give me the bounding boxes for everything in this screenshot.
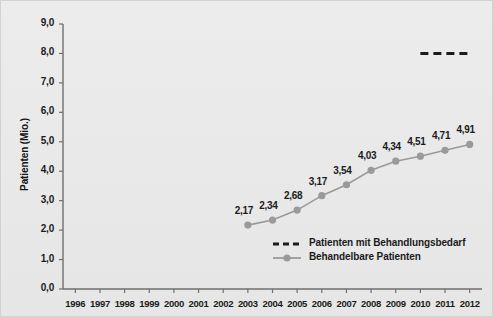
data-point-marker — [441, 147, 448, 154]
legend-marker-swatch — [283, 254, 290, 261]
data-point-marker — [466, 141, 473, 148]
data-point-marker — [318, 192, 325, 199]
y-axis-tick-label: 3,0 — [24, 194, 54, 205]
legend-marks — [273, 244, 301, 262]
x-axis-tick-label: 2012 — [453, 298, 487, 309]
data-point-marker — [392, 158, 399, 165]
y-axis-tick-label: 0,0 — [24, 282, 54, 293]
data-point-marker — [343, 181, 350, 188]
data-point-marker — [244, 222, 251, 229]
data-point-label: 4,91 — [451, 124, 481, 135]
legend-item-label: Patienten mit Behandlungsbedarf — [309, 237, 465, 248]
legend-item-label: Behandelbare Patienten — [309, 251, 421, 262]
data-point-marker — [417, 153, 424, 160]
y-axis-tick-label: 2,0 — [24, 223, 54, 234]
y-axis-tick-label: 4,0 — [24, 164, 54, 175]
y-axis-tick-label: 7,0 — [24, 76, 54, 87]
data-point-label: 3,54 — [327, 165, 357, 176]
y-axis-tick-label: 9,0 — [24, 17, 54, 28]
data-point-label: 2,34 — [254, 200, 284, 211]
data-point-marker — [294, 206, 301, 213]
y-axis-tick-label: 1,0 — [24, 253, 54, 264]
line-chart-canvas — [1, 1, 493, 317]
data-point-marker — [269, 217, 276, 224]
y-axis-tick-label: 6,0 — [24, 105, 54, 116]
y-axis-tick-label: 5,0 — [24, 135, 54, 146]
chart-frame: Patienten (Mio.) 0,01,02,03,04,05,06,07,… — [0, 0, 493, 317]
data-point-label: 2,68 — [278, 190, 308, 201]
y-axis-tick-label: 8,0 — [24, 46, 54, 57]
data-point-label: 3,17 — [303, 176, 333, 187]
data-point-marker — [367, 167, 374, 174]
